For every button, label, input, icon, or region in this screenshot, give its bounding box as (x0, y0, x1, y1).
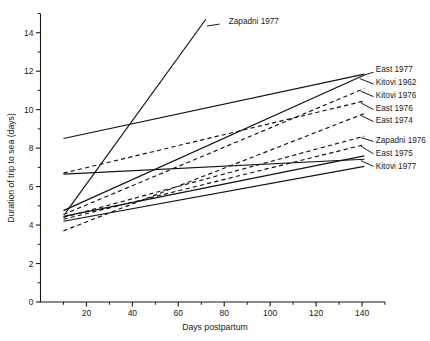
x-axis-title: Days postpartum (182, 322, 248, 332)
series-label-kitovi-1977: Kitovi 1977 (376, 162, 417, 171)
leader-line-east-1974 (361, 115, 374, 121)
series-line-east-1977 (63, 74, 364, 138)
series-line-unlabeled-series-b (63, 166, 364, 221)
y-tick-label: 6 (29, 182, 34, 192)
series-label-zapadni-1977: Zapadni 1977 (229, 17, 280, 26)
x-tick-label: 20 (82, 308, 92, 318)
series-line-kitovi-1976 (63, 89, 364, 215)
leader-line-zapadni-1977 (207, 24, 220, 26)
series-line-kitovi-1977 (63, 159, 364, 174)
series-line-east-1975 (63, 145, 364, 220)
leader-line-east-1977 (363, 72, 373, 75)
series-line-zapadni-1977 (66, 19, 206, 212)
y-tick-label: 8 (29, 143, 34, 153)
y-tick-label: 4 (29, 220, 34, 230)
x-tick-label: 80 (219, 308, 229, 318)
y-tick-label: 10 (24, 105, 34, 115)
series-label-kitovi-1976: Kitovi 1976 (376, 91, 417, 100)
line-chart: 0246810121420406080100120140 Zapadni 197… (0, 0, 430, 341)
leader-line-kitovi-1962 (360, 79, 374, 85)
series-line-east-1976 (63, 101, 364, 173)
series-label-east-1976: East 1976 (376, 104, 413, 113)
axes-layer: 0246810121420406080100120140 (24, 14, 385, 319)
figure-container: 0246810121420406080100120140 Zapadni 197… (0, 0, 430, 341)
series-labels-layer: Zapadni 1977East 1977Kitovi 1962Kitovi 1… (207, 17, 426, 170)
y-tick-label: 0 (29, 297, 34, 307)
x-tick-label: 40 (128, 308, 138, 318)
leader-line-kitovi-1977 (361, 161, 374, 167)
leader-line-zapadni-1976 (361, 138, 374, 142)
y-tick-label: 14 (24, 28, 34, 38)
y-axis-title: Duration of trip to sea (days) (6, 113, 16, 223)
series-label-zapadni-1976: Zapadni 1976 (376, 136, 427, 145)
x-tick-label: 140 (355, 308, 369, 318)
series-line-unlabeled-series-a (63, 156, 364, 217)
leader-line-east-1976 (361, 103, 374, 110)
series-label-east-1975: East 1975 (376, 149, 413, 158)
x-tick-label: 100 (263, 308, 277, 318)
series-label-kitovi-1962: Kitovi 1962 (376, 78, 417, 87)
y-tick-label: 2 (29, 259, 34, 269)
x-tick-label: 60 (174, 308, 184, 318)
axis-spines (41, 14, 386, 303)
leader-line-east-1975 (361, 146, 374, 154)
y-tick-label: 12 (24, 66, 34, 76)
series-label-east-1974: East 1974 (376, 116, 413, 125)
x-tick-label: 120 (309, 308, 323, 318)
series-line-zapadni-1976 (63, 136, 364, 217)
series-line-kitovi-1962 (63, 75, 364, 211)
series-label-east-1977: East 1977 (376, 65, 413, 74)
series-layer (63, 19, 364, 231)
leader-line-kitovi-1976 (361, 91, 374, 96)
